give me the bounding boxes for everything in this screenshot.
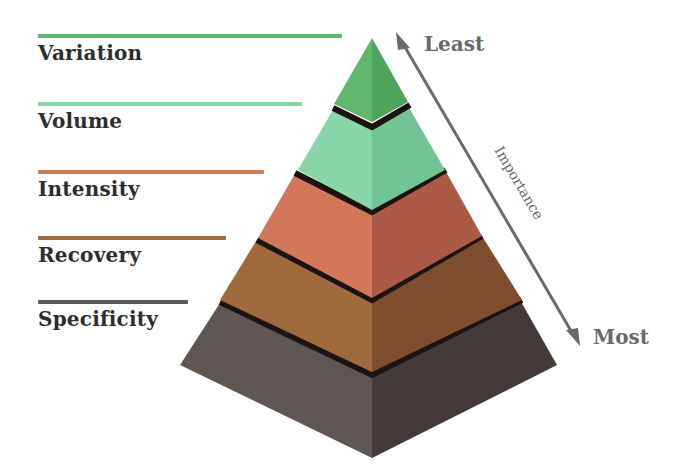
arrow-head-up-icon [396,32,410,50]
legend-line-recovery [38,236,226,240]
legend-label-specificity: Specificity [38,307,188,331]
arrow-head-down-icon [566,328,580,346]
legend-intensity: Intensity [38,170,264,201]
legend-label-intensity: Intensity [38,177,264,201]
legend-label-volume: Volume [38,109,302,133]
legend-label-variation: Variation [38,41,342,65]
legend-line-variation [38,34,342,38]
legend-line-specificity [38,300,188,304]
legend-variation: Variation [38,34,342,65]
axis-label-least: Least [424,32,484,56]
legend-line-volume [38,102,302,106]
axis-label-most: Most [593,325,649,349]
legend-line-intensity [38,170,264,174]
legend-recovery: Recovery [38,236,226,267]
legend-label-recovery: Recovery [38,243,226,267]
legend-volume: Volume [38,102,302,133]
legend-specificity: Specificity [38,300,188,331]
